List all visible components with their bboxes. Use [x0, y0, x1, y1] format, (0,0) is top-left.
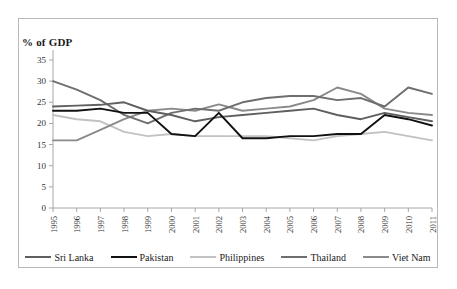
legend-swatch-icon	[363, 256, 389, 258]
x-tick-label: 2008	[356, 216, 366, 233]
legend-item-label: Pakistan	[140, 252, 174, 263]
legend-swatch-icon	[25, 256, 51, 258]
line-chart-svg: 0510152025303519951996199719981999200020…	[18, 18, 438, 268]
y-tick-label: 10	[37, 161, 47, 171]
y-tick-label: 15	[37, 140, 47, 150]
y-tick-label: 35	[37, 55, 47, 65]
x-tick-label: 2001	[191, 216, 201, 233]
x-tick-label: 1999	[143, 216, 153, 233]
x-tick-label: 1997	[96, 216, 106, 233]
legend-item-thailand[interactable]: Thailand	[281, 252, 346, 263]
legend-item-pakistan[interactable]: Pakistan	[111, 252, 174, 263]
legend-item-label: Viet Nam	[392, 252, 431, 263]
x-tick-label: 2009	[380, 216, 390, 233]
legend-swatch-icon	[190, 256, 216, 258]
chart-plot-area: 0510152025303519951996199719981999200020…	[18, 18, 438, 268]
x-tick-label: 1998	[120, 216, 130, 233]
legend-item-viet-nam[interactable]: Viet Nam	[363, 252, 431, 263]
legend-swatch-icon	[281, 256, 307, 258]
legend-item-sri-lanka[interactable]: Sri Lanka	[25, 252, 93, 263]
legend-item-label: Philippines	[219, 252, 264, 263]
legend-item-label: Sri Lanka	[54, 252, 93, 263]
x-tick-label: 2011	[428, 216, 438, 233]
chart-axes	[53, 50, 432, 208]
x-tick-label: 1995	[49, 216, 59, 233]
x-tick-label: 2003	[238, 216, 248, 233]
legend-item-label: Thailand	[310, 252, 346, 263]
legend-swatch-icon	[111, 256, 137, 258]
x-tick-label: 2010	[404, 216, 414, 233]
series-line-philippines	[53, 115, 432, 140]
y-tick-label: 25	[37, 97, 47, 107]
y-tick-label: 0	[42, 203, 47, 213]
y-tick-label: 5	[42, 182, 47, 192]
x-tick-label: 2000	[167, 216, 177, 233]
x-tick-label: 2004	[262, 215, 272, 233]
y-tick-label: 30	[37, 76, 47, 86]
x-tick-label: 2006	[309, 216, 319, 233]
y-tick-label: 20	[37, 118, 47, 128]
legend-item-philippines[interactable]: Philippines	[190, 252, 264, 263]
x-tick-label: 1996	[72, 216, 82, 233]
x-tick-label: 2007	[333, 216, 343, 233]
series-line-thailand	[53, 81, 432, 123]
chart-legend: Sri LankaPakistanPhilippinesThailandViet…	[18, 247, 438, 267]
x-tick-label: 2005	[285, 216, 295, 233]
x-tick-label: 2002	[214, 216, 224, 233]
series-line-pakistan	[53, 109, 432, 139]
